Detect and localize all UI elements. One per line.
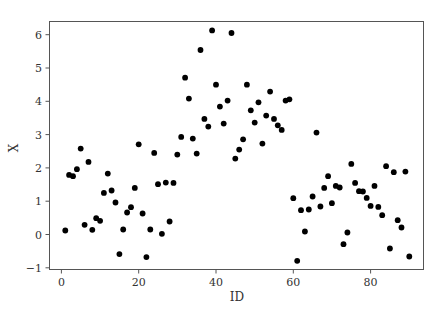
data-point bbox=[70, 173, 76, 179]
data-point bbox=[406, 254, 412, 260]
data-point bbox=[252, 120, 258, 126]
data-point bbox=[89, 227, 95, 233]
y-tick-label: 6 bbox=[35, 29, 42, 42]
data-point bbox=[151, 150, 157, 156]
x-tick-label: 40 bbox=[209, 276, 223, 289]
x-tick-label: 20 bbox=[132, 276, 146, 289]
data-point bbox=[209, 28, 215, 34]
data-point bbox=[364, 195, 370, 201]
data-point bbox=[101, 190, 107, 196]
x-tick-label: 0 bbox=[58, 276, 65, 289]
data-point bbox=[287, 96, 293, 102]
data-point bbox=[290, 195, 296, 201]
data-point bbox=[174, 152, 180, 158]
y-tick-label: 5 bbox=[35, 62, 42, 75]
data-point bbox=[86, 159, 92, 165]
data-point bbox=[117, 251, 123, 257]
data-point bbox=[171, 180, 177, 186]
data-point bbox=[202, 116, 208, 122]
data-point bbox=[62, 228, 68, 234]
data-point bbox=[279, 127, 285, 133]
data-point bbox=[341, 241, 347, 247]
data-point bbox=[213, 82, 219, 88]
data-point bbox=[391, 169, 397, 175]
data-point bbox=[147, 227, 153, 233]
data-point bbox=[244, 82, 250, 88]
y-tick-label: −1 bbox=[26, 262, 42, 275]
data-point bbox=[271, 116, 277, 122]
data-point bbox=[321, 185, 327, 191]
data-point bbox=[225, 98, 231, 104]
data-point bbox=[217, 104, 223, 110]
data-point bbox=[329, 200, 335, 206]
data-point bbox=[379, 212, 385, 218]
data-point bbox=[248, 107, 254, 113]
data-point bbox=[140, 211, 146, 217]
data-point bbox=[232, 156, 238, 162]
data-point bbox=[360, 189, 366, 195]
data-point bbox=[74, 166, 80, 172]
data-point bbox=[302, 229, 308, 235]
data-point bbox=[256, 99, 262, 105]
data-point bbox=[236, 147, 242, 153]
y-axis: −10123456 bbox=[26, 29, 50, 275]
data-point bbox=[155, 181, 161, 187]
data-point bbox=[229, 30, 235, 36]
data-point bbox=[178, 134, 184, 140]
data-point bbox=[375, 204, 381, 210]
data-point bbox=[260, 141, 266, 147]
data-point bbox=[387, 246, 393, 252]
data-point bbox=[221, 121, 227, 127]
data-point bbox=[159, 231, 165, 237]
x-tick-label: 80 bbox=[364, 276, 378, 289]
data-point bbox=[109, 188, 115, 194]
y-tick-label: 3 bbox=[35, 129, 42, 142]
data-point bbox=[205, 124, 211, 130]
data-point bbox=[78, 146, 84, 152]
x-axis: 020406080 bbox=[58, 270, 378, 290]
data-point bbox=[368, 203, 374, 209]
data-point bbox=[82, 222, 88, 228]
data-point bbox=[113, 200, 119, 206]
data-point bbox=[144, 254, 150, 260]
data-point bbox=[263, 113, 269, 119]
y-tick-label: 1 bbox=[35, 195, 42, 208]
data-point bbox=[352, 180, 358, 186]
data-point bbox=[383, 163, 389, 169]
data-point bbox=[403, 169, 409, 175]
data-point bbox=[120, 227, 126, 233]
data-point bbox=[318, 204, 324, 210]
data-point bbox=[182, 75, 188, 81]
data-point bbox=[306, 207, 312, 213]
data-point bbox=[132, 185, 138, 191]
data-point bbox=[395, 217, 401, 223]
data-point bbox=[194, 151, 200, 157]
data-point bbox=[275, 122, 281, 128]
data-point bbox=[136, 141, 142, 147]
data-point bbox=[190, 136, 196, 142]
data-point bbox=[294, 258, 300, 264]
data-point bbox=[186, 96, 192, 102]
data-point bbox=[167, 219, 173, 225]
data-point bbox=[345, 230, 351, 236]
data-point bbox=[240, 136, 246, 142]
plot-frame bbox=[50, 22, 424, 270]
data-point bbox=[298, 207, 304, 213]
data-point bbox=[267, 89, 273, 95]
data-point bbox=[124, 210, 130, 216]
y-axis-label: X bbox=[7, 143, 21, 152]
data-point bbox=[105, 171, 111, 177]
scatter-chart: −10123456 020406080 ID X bbox=[0, 0, 441, 321]
y-tick-label: 4 bbox=[35, 95, 42, 108]
data-point bbox=[97, 218, 103, 224]
data-point bbox=[325, 173, 331, 179]
y-tick-label: 0 bbox=[35, 229, 42, 242]
x-axis-label: ID bbox=[230, 290, 244, 304]
data-point bbox=[348, 161, 354, 167]
data-point bbox=[314, 130, 320, 136]
data-point bbox=[128, 204, 134, 210]
x-tick-label: 60 bbox=[286, 276, 300, 289]
data-point bbox=[163, 180, 169, 186]
data-point bbox=[310, 194, 316, 200]
data-point bbox=[372, 183, 378, 189]
